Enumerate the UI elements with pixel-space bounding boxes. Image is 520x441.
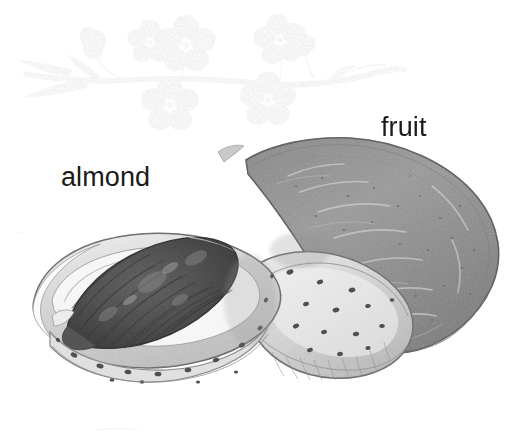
label-fruit: fruit	[381, 112, 427, 143]
almond-illustration	[0, 0, 520, 441]
label-almond: almond	[61, 162, 150, 193]
almond-botanical-figure: almond fruit	[0, 0, 520, 441]
